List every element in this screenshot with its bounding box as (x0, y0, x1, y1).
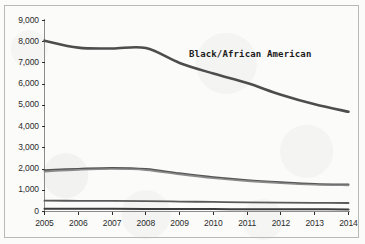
x-axis-tick-label: 2010 (197, 218, 229, 228)
x-axis-tick-label: 2011 (231, 218, 263, 228)
series-annotation-black-african-american: Black/African American (189, 49, 312, 59)
x-axis-tick-label: 2007 (96, 218, 128, 228)
x-axis-tick-label: 2005 (29, 218, 61, 228)
x-axis-tick-labels: 2005200620072008200920102011201220132014 (0, 0, 365, 244)
x-axis-tick-label: 2008 (130, 218, 162, 228)
x-axis-tick-label: 2009 (164, 218, 196, 228)
x-axis-tick-label: 2006 (62, 218, 94, 228)
chart-figure: 01,0002,0003,0004,0005,0006,0007,0008,00… (0, 0, 365, 244)
x-axis-tick-label: 2014 (333, 218, 365, 228)
x-axis-tick-label: 2013 (299, 218, 331, 228)
x-axis-tick-label: 2012 (265, 218, 297, 228)
